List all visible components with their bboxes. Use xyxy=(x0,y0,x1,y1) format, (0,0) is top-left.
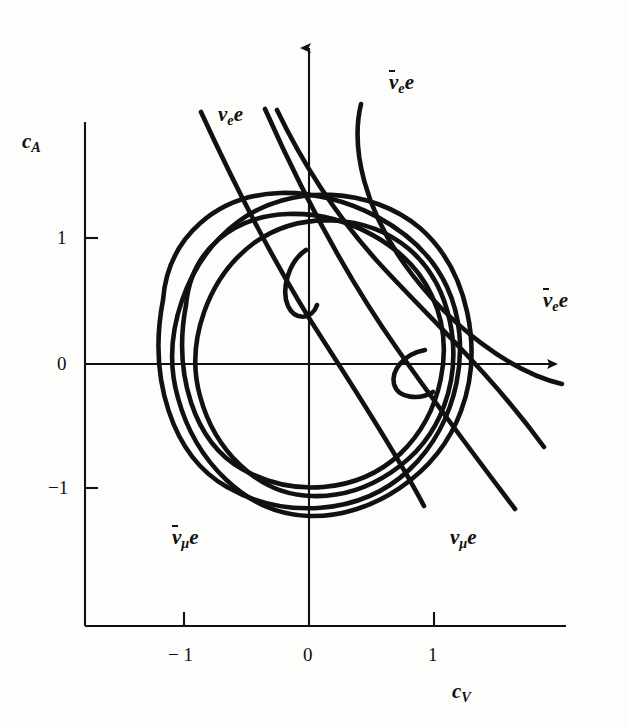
label-main: ν xyxy=(543,290,552,311)
figure-root: cA cV 1 0 −1 − 1 0 1 νee νee νee νμe νμe xyxy=(0,0,629,728)
x-tick-label-minus1: − 1 xyxy=(168,645,193,664)
label-tail: e xyxy=(559,288,568,312)
curve-label-nubar-e-e-top: νee xyxy=(389,72,414,95)
x-axis-title: cV xyxy=(452,681,471,704)
y-tick-label-minus1: −1 xyxy=(48,478,68,497)
label-tail: e xyxy=(405,70,414,94)
label-main: ν xyxy=(450,525,459,549)
curve-nubarmu-inner-oval xyxy=(195,220,453,496)
curve-nubarmu-outer-oval xyxy=(172,195,471,516)
label-tail: e xyxy=(189,525,198,549)
y-axis-title-main: c xyxy=(22,129,31,153)
x-tick-label-1: 1 xyxy=(428,645,438,664)
label-main: ν xyxy=(389,72,398,93)
label-main: ν xyxy=(172,527,181,548)
y-axis-title-sub: A xyxy=(31,139,41,155)
y-axis-title: cA xyxy=(22,131,41,154)
x-axis-title-sub: V xyxy=(461,689,471,705)
y-tick-label-1: 1 xyxy=(57,228,67,247)
y-tick-label-0: 0 xyxy=(57,354,67,373)
label-tail: e xyxy=(467,525,476,549)
label-main: ν xyxy=(218,102,227,126)
label-tail: e xyxy=(234,102,243,126)
curve-label-nubar-e-e-right: νee xyxy=(543,290,568,313)
curve-label-nu-e-e: νee xyxy=(218,104,243,127)
x-tick-label-0: 0 xyxy=(303,645,313,664)
x-axis-title-main: c xyxy=(452,679,461,703)
data-curves xyxy=(159,104,562,516)
curve-label-nu-mu-e: νμe xyxy=(450,527,477,550)
plot-canvas xyxy=(0,0,629,728)
curve-label-nubar-mu-e: νμe xyxy=(172,527,199,550)
